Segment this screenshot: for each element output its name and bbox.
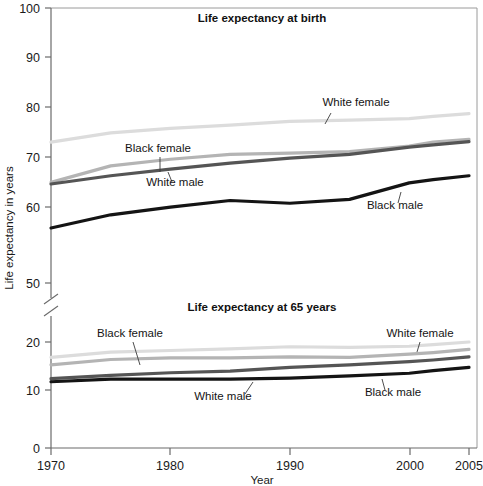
- y-tick-label-50: 50: [26, 277, 40, 291]
- series-annotation-black-male-birth: Black male: [367, 199, 423, 211]
- series-annotation-white-male-birth: White male: [146, 176, 204, 188]
- y-tick-label-100: 100: [19, 2, 40, 16]
- y-tick-label-90: 90: [26, 51, 40, 65]
- x-tick-label-1990: 1990: [276, 459, 304, 473]
- y-tick-label-10: 10: [26, 384, 40, 398]
- chart-figure: 100 90 80 70 60 50 20 10 0 1970 1980 199…: [0, 0, 483, 486]
- plot-background: [51, 8, 477, 448]
- series-annotation-black-female-age65: Black female: [97, 327, 163, 339]
- panel-title-age65: Life expectancy at 65 years: [188, 301, 337, 313]
- series-annotation-black-male-age65: Black male: [365, 386, 421, 398]
- x-tick-label-1980: 1980: [156, 459, 184, 473]
- y-axis-title: Life expectancy in years: [3, 166, 15, 290]
- x-tick-label-1970: 1970: [37, 459, 65, 473]
- series-annotation-white-female-age65: White female: [386, 327, 453, 339]
- x-tick-label-2005: 2005: [455, 459, 483, 473]
- x-tick-label-2000: 2000: [396, 459, 424, 473]
- life-expectancy-line-chart: 100 90 80 70 60 50 20 10 0 1970 1980 199…: [0, 0, 483, 486]
- series-annotation-white-female-birth: White female: [322, 96, 389, 108]
- series-annotation-black-female-birth: Black female: [125, 142, 191, 154]
- y-tick-label-0: 0: [33, 442, 40, 456]
- x-tick-marks: [51, 448, 469, 455]
- y-tick-label-70: 70: [26, 151, 40, 165]
- y-tick-label-20: 20: [26, 336, 40, 350]
- x-axis-title: Year: [250, 474, 273, 486]
- series-annotation-white-male-age65: White male: [194, 390, 252, 402]
- panel-title-birth: Life expectancy at birth: [198, 12, 326, 24]
- y-tick-label-80: 80: [26, 101, 40, 115]
- y-tick-label-60: 60: [26, 201, 40, 215]
